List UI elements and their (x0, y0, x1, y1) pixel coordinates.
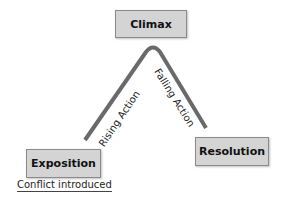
climax-box: Climax (115, 10, 187, 38)
conflict-note: Conflict introduced (17, 179, 112, 192)
exposition-label: Exposition (31, 157, 96, 170)
resolution-box: Resolution (195, 137, 269, 166)
climax-label: Climax (130, 18, 172, 31)
exposition-box: Exposition (26, 149, 101, 178)
resolution-label: Resolution (199, 145, 265, 158)
